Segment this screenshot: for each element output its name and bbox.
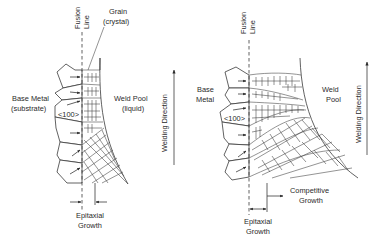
svg-text:Base: Base (197, 85, 214, 94)
svg-text:Epitaxial: Epitaxial (76, 211, 104, 220)
base-metal-label: Base Metal (substrate) (11, 94, 49, 113)
base-metal-grains (55, 64, 82, 183)
svg-text:Fusion: Fusion (73, 7, 82, 29)
base-metal-grains (220, 67, 249, 180)
panel-epitaxial-growth: Fusion Line Grain (crystal) <100> (11, 7, 174, 230)
base-metal-label: Base Metal (196, 85, 214, 104)
svg-text:Base Metal: Base Metal (12, 94, 49, 103)
svg-text:(crystal): (crystal) (103, 17, 129, 26)
direction-100-label: <100> (58, 110, 79, 119)
svg-text:Pool: Pool (326, 95, 341, 104)
svg-text:Welding Direction: Welding Direction (160, 94, 169, 152)
direction-100-label: <100> (224, 114, 245, 123)
svg-text:Grain: Grain (109, 7, 127, 16)
svg-text:Fusion: Fusion (239, 12, 248, 34)
panel-competitive-growth: Fusion Line <100> (196, 12, 367, 236)
welding-direction-indicator: Welding Direction (354, 62, 367, 155)
svg-text:(substrate): (substrate) (11, 104, 46, 113)
svg-text:Metal: Metal (196, 95, 214, 104)
epitaxial-growth-indicator: Epitaxial Growth (244, 183, 272, 236)
weld-pool-label: Weld Pool (liquid) (114, 94, 148, 113)
svg-text:Welding Direction: Welding Direction (354, 85, 363, 143)
weld-pool-label: Weld Pool (322, 85, 341, 104)
weld-pool-boundary (100, 58, 128, 184)
grain-leader-line (88, 27, 104, 70)
svg-text:Growth: Growth (246, 227, 270, 236)
svg-text:Line: Line (82, 15, 91, 29)
fusion-line-label: Fusion Line (239, 12, 257, 34)
svg-text:Line: Line (248, 20, 257, 34)
svg-text:Weld: Weld (322, 85, 339, 94)
grain-label: Grain (crystal) (88, 7, 129, 70)
svg-text:Weld Pool: Weld Pool (114, 94, 148, 103)
epitaxial-growth-indicator: Epitaxial Growth (70, 183, 107, 230)
svg-text:Growth: Growth (78, 221, 102, 230)
svg-text:Competitive: Competitive (290, 186, 329, 195)
fusion-line-label: Fusion Line (73, 7, 91, 29)
competitive-growth-indicator: Competitive Growth (267, 186, 329, 205)
svg-text:Epitaxial: Epitaxial (244, 217, 272, 226)
welding-direction-indicator: Welding Direction (160, 70, 174, 165)
svg-text:(liquid): (liquid) (122, 104, 144, 113)
svg-text:Growth: Growth (299, 196, 323, 205)
weld-solidification-diagram: Fusion Line Grain (crystal) <100> (0, 0, 381, 243)
